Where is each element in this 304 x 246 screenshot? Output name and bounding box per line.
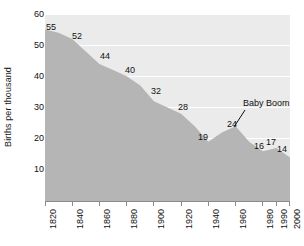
y-axis-tick-labels: 60 50 40 30 20 10 [14, 0, 44, 246]
x-tick-mark [289, 201, 290, 206]
y-axis-label: Births per thousand [3, 67, 13, 147]
data-label-40: 40 [125, 66, 135, 75]
data-label-52: 52 [72, 32, 82, 41]
data-label-32: 32 [151, 87, 161, 96]
x-tick-mark [153, 201, 154, 206]
x-tick-mark [208, 201, 209, 206]
x-tick-mark [181, 201, 182, 206]
x-tick-mark [262, 201, 263, 206]
data-label-17: 17 [266, 138, 276, 147]
y-tick-label: 10 [18, 165, 44, 174]
x-tick-label: 1840 [76, 209, 85, 229]
x-tick-label: 1980 [266, 209, 275, 229]
data-label-24: 24 [227, 120, 237, 129]
plot-area: 55 52 44 40 32 28 19 24 16 17 14 Baby Bo… [45, 14, 290, 201]
data-label-55: 55 [46, 23, 56, 32]
y-tick-label: 40 [18, 72, 44, 81]
data-label-44: 44 [100, 52, 110, 61]
x-tick-mark [99, 201, 100, 206]
data-label-14: 14 [277, 145, 287, 154]
x-tick-label: 1860 [103, 209, 112, 229]
x-tick-label: 1920 [185, 209, 194, 229]
x-tick-label: 1820 [49, 209, 58, 229]
data-label-28: 28 [178, 103, 188, 112]
x-tick-mark [72, 201, 73, 206]
y-tick-label: 30 [18, 103, 44, 112]
x-tick-label: 1880 [130, 209, 139, 229]
x-tick-mark [276, 201, 277, 206]
y-tick-label: 60 [18, 10, 44, 19]
annotation-baby-boom: Baby Boom [243, 99, 290, 108]
y-tick-label: 50 [18, 41, 44, 50]
x-tick-label: 2000 [293, 209, 302, 229]
x-tick-mark [235, 201, 236, 206]
x-tick-label: 1990 [280, 209, 289, 229]
x-tick-label: 1940 [212, 209, 221, 229]
x-tick-mark [126, 201, 127, 206]
x-tick-label: 1960 [239, 209, 248, 229]
data-label-16: 16 [254, 142, 264, 151]
y-tick-label: 20 [18, 134, 44, 143]
x-tick-mark [45, 201, 46, 206]
chart-figure: Births per thousand 60 50 40 30 20 10 55… [0, 0, 304, 246]
x-axis-line [45, 201, 290, 202]
data-label-19: 19 [198, 133, 208, 142]
x-tick-label: 1900 [157, 209, 166, 229]
